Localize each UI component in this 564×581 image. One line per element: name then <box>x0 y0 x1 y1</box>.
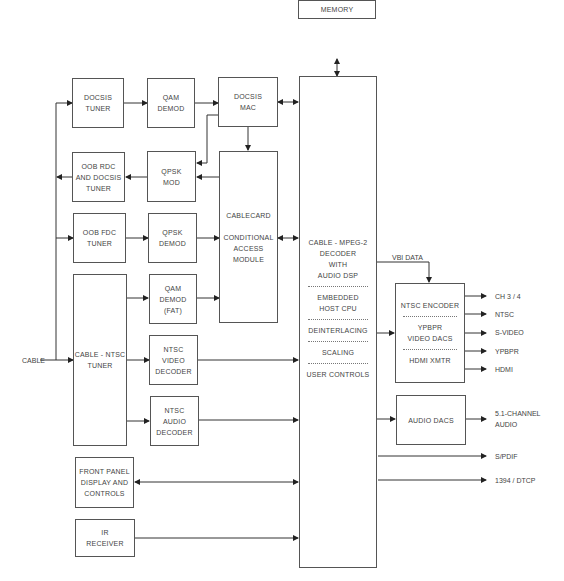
block-label: TUNER <box>87 238 112 249</box>
block-label: AUDIO <box>163 416 186 427</box>
output-ch34-label: CH 3 / 4 <box>495 291 521 302</box>
video-encoder-block: NTSC ENCODER YPBPR VIDEO DACS HDMI XMTR <box>395 283 465 383</box>
block-label: OOB FDC <box>83 227 116 238</box>
divider <box>403 349 457 350</box>
cable-input-label: CABLE <box>22 355 45 366</box>
block-label: CABLE - NTSC <box>75 349 126 360</box>
block-label: MODULE <box>233 254 264 265</box>
block-label: DEINTERLACING <box>308 325 367 336</box>
cable-ntsc-tuner-block: CABLE - NTSC TUNER <box>73 274 127 446</box>
block-label: DOCSIS <box>234 91 262 102</box>
front-panel-block: FRONT PANEL DISPLAY AND CONTROLS <box>75 457 134 508</box>
qam-demod-fat-block: QAM DEMOD (FAT) <box>149 274 197 324</box>
memory-label: MEMORY <box>321 4 354 15</box>
cablecard-block: CABLECARD CONDITIONAL ACCESS MODULE <box>219 151 278 323</box>
block-label: DEMOD <box>159 294 186 305</box>
block-label: RECEIVER <box>86 538 123 549</box>
block-label: HOST CPU <box>319 303 357 314</box>
block-label: WITH <box>329 259 348 270</box>
block-label: TUNER <box>87 360 112 371</box>
block-label: AND DOCSIS <box>76 172 122 183</box>
qpsk-demod-block: QPSK DEMOD <box>148 213 197 263</box>
block-label: DECODER <box>320 248 356 259</box>
divider <box>308 286 369 287</box>
block-label: DECODER <box>156 427 192 438</box>
block-label: ACCESS <box>234 243 264 254</box>
block-label: CABLE - MPEG-2 <box>309 237 368 248</box>
memory-block: MEMORY <box>298 0 376 19</box>
block-label: NTSC <box>165 405 185 416</box>
output-dtcp-label: 1394 / DTCP <box>495 475 535 486</box>
block-label: DOCSIS <box>84 92 112 103</box>
block-label: QAM <box>163 92 180 103</box>
mpeg2-decoder-block: CABLE - MPEG-2 DECODER WITH AUDIO DSP EM… <box>299 76 377 568</box>
block-label: DEMOD <box>159 238 186 249</box>
qam-demod-block: QAM DEMOD <box>147 78 195 128</box>
output-spdif-label: S/PDIF <box>495 451 518 462</box>
block-label: DEMOD <box>157 103 184 114</box>
block-label: YPBPR <box>418 322 443 333</box>
block-label: DECODER <box>155 366 191 377</box>
qpsk-mod-block: QPSK MOD <box>147 151 196 202</box>
oob-fdc-tuner-block: OOB FDC TUNER <box>73 213 126 263</box>
ntsc-audio-decoder-block: NTSC AUDIO DECODER <box>150 396 199 446</box>
block-label: CONDITIONAL <box>223 232 273 243</box>
block-label: NTSC <box>164 344 184 355</box>
block-label: QPSK <box>161 166 181 177</box>
docsis-mac-block: DOCSIS MAC <box>218 77 278 127</box>
block-label: (FAT) <box>164 305 182 316</box>
block-label: VIDEO DACS <box>407 333 452 344</box>
divider <box>308 363 369 364</box>
block-label: MOD <box>163 177 180 188</box>
divider <box>308 319 369 320</box>
block-label: FRONT PANEL <box>79 466 130 477</box>
divider <box>308 341 369 342</box>
block-label: QAM <box>165 283 182 294</box>
oob-rdc-docsis-tuner-block: OOB RDC AND DOCSIS TUNER <box>72 152 125 202</box>
divider <box>403 316 457 317</box>
vbi-data-label: VBI DATA <box>392 252 423 263</box>
block-label: USER CONTROLS <box>307 369 370 380</box>
audio-output-line2: AUDIO <box>495 419 541 430</box>
docsis-tuner-block: DOCSIS TUNER <box>72 78 124 128</box>
block-label: OOB RDC <box>81 161 115 172</box>
ntsc-video-decoder-block: NTSC VIDEO DECODER <box>149 335 198 385</box>
block-label: TUNER <box>85 103 110 114</box>
block-label: HDMI XMTR <box>409 355 450 366</box>
block-label: TUNER <box>86 183 111 194</box>
audio-dacs-block: AUDIO DACS <box>396 395 466 445</box>
audio-output-line1: 5.1-CHANNEL <box>495 408 541 419</box>
block-label: MAC <box>240 102 256 113</box>
output-ntsc-label: NTSC <box>495 309 514 320</box>
block-label: CABLECARD <box>226 210 271 221</box>
block-label: CONTROLS <box>84 488 125 499</box>
output-ypbpr-label: YPBPR <box>495 346 519 357</box>
output-audio-label: 5.1-CHANNEL AUDIO <box>495 408 541 430</box>
block-label: DISPLAY AND <box>81 477 128 488</box>
block-label: EMBEDDED <box>317 292 358 303</box>
block-label: AUDIO DACS <box>408 415 454 426</box>
block-label: QPSK <box>162 227 182 238</box>
block-label: NTSC ENCODER <box>401 300 459 311</box>
ir-receiver-block: IR RECEIVER <box>75 519 135 557</box>
block-label: SCALING <box>322 347 354 358</box>
output-hdmi-label: HDMI <box>495 364 513 375</box>
block-label: AUDIO DSP <box>318 270 358 281</box>
output-svideo-label: S-VIDEO <box>495 327 524 338</box>
block-label: IR <box>101 527 108 538</box>
block-label: VIDEO <box>162 355 185 366</box>
